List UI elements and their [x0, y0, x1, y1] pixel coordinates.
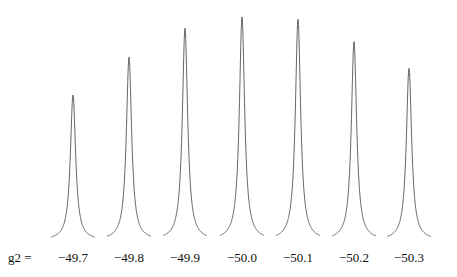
g2-tick-label: −50.2: [339, 250, 369, 265]
peak-curve: [107, 57, 151, 236]
g2-tick-label: −49.8: [114, 250, 144, 265]
g2-axis-label: g2 =: [8, 250, 32, 265]
g2-tick-label: −50.0: [227, 250, 257, 265]
peak-curve: [387, 68, 431, 236]
peak-curve: [163, 28, 207, 235]
g2-tick-label: −49.7: [58, 250, 89, 265]
peak-curve: [276, 19, 320, 235]
peaks-chart: g2 = −49.7−49.8−49.9−50.0−50.1−50.2−50.3: [0, 0, 457, 277]
g2-tick-label: −49.9: [170, 250, 200, 265]
g2-tick-label: −50.3: [394, 250, 424, 265]
g2-tick-label: −50.1: [283, 250, 313, 265]
peak-curve: [220, 17, 264, 235]
peak-curve: [51, 95, 95, 237]
peak-series: [51, 17, 431, 237]
g2-tick-labels: −49.7−49.8−49.9−50.0−50.1−50.2−50.3: [58, 250, 424, 265]
peak-curve: [332, 42, 376, 236]
